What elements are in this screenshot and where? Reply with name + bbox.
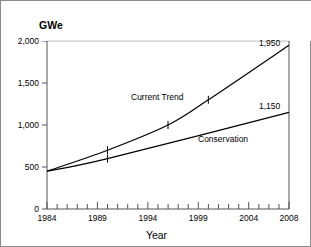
y-tick-label-500: 500	[1, 162, 39, 172]
endpoint-label-current-trend: 1,950	[259, 38, 280, 48]
x-tick-label-2008: 2008	[269, 213, 309, 223]
series-label-current-trend: Current Trend	[131, 92, 183, 102]
y-axis-ticks	[42, 41, 47, 209]
x-tick-label-1984: 1984	[27, 213, 67, 223]
y-tick-label-1500: 1,500	[1, 78, 39, 88]
x-axis-title: Year	[1, 229, 311, 241]
y-tick-label-2000: 2,000	[1, 36, 39, 46]
y-tick-label-1000: 1,000	[1, 120, 39, 130]
series-path-current-trend	[47, 45, 289, 171]
x-tick-label-2004: 2004	[229, 213, 269, 223]
x-tick-label-1989: 1989	[77, 213, 117, 223]
chart-figure: GWe 2,000 1,500 1,000 500 0 1984 1989 19…	[0, 0, 311, 247]
y-axis-unit-label: GWe	[39, 19, 63, 31]
x-axis-minor-ticks	[57, 204, 279, 209]
x-tick-label-1999: 1999	[178, 213, 218, 223]
endpoint-label-conservation: 1,150	[259, 101, 280, 111]
series-label-conservation: Conservation	[198, 134, 248, 144]
x-tick-label-1994: 1994	[128, 213, 168, 223]
